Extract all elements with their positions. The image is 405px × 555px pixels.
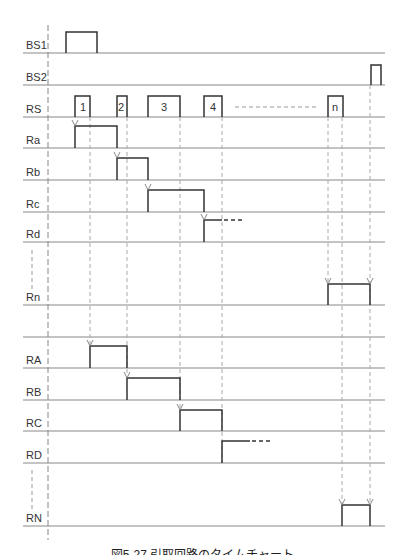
time-markers	[32, 85, 370, 510]
rs-pulse-4: 4	[210, 101, 216, 113]
label-rb-upper: RB	[26, 386, 41, 398]
label-ra: Ra	[26, 134, 41, 146]
label-ra-upper: RA	[26, 354, 42, 366]
label-rc: Rc	[26, 198, 40, 210]
rs-pulse-2: 2	[118, 101, 124, 113]
label-bs1: BS1	[26, 39, 47, 51]
baselines	[23, 53, 385, 526]
rs-pulse-3: 3	[161, 101, 167, 113]
label-bs2: BS2	[26, 71, 47, 83]
label-rs: RS	[26, 103, 41, 115]
figure-caption: 図5-27 引取回路のタイムチャート	[0, 545, 405, 555]
label-rn-upper: RN	[26, 512, 42, 524]
timing-chart: BS1 BS2 RS Ra Rb Rc Rd Rn RA RB RC RD RN…	[0, 0, 405, 555]
label-rc-upper: RC	[26, 417, 42, 429]
rs-pulse-1: 1	[80, 101, 86, 113]
signal-labels: BS1 BS2 RS Ra Rb Rc Rd Rn RA RB RC RD RN	[26, 39, 47, 524]
continuation-dashes	[224, 220, 273, 441]
rs-pulse-n: n	[332, 101, 338, 113]
label-rd-upper: RD	[26, 449, 42, 461]
label-rb: Rb	[26, 166, 40, 178]
label-rn: Rn	[26, 291, 40, 303]
label-rd: Rd	[26, 228, 40, 240]
